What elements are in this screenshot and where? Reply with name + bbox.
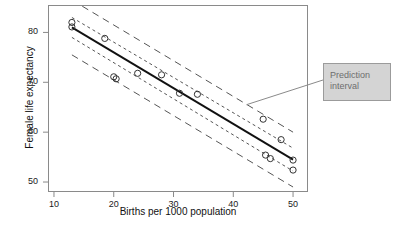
- callout-label: Prediction interval: [330, 70, 388, 92]
- callout-leader-line: [246, 80, 323, 105]
- data-points: [69, 19, 296, 173]
- callout-line-2: interval: [330, 81, 388, 92]
- chart-container: 102030405050607080 Births per 1000 popul…: [0, 0, 398, 239]
- y-axis-title: Female life expectancy: [24, 13, 35, 183]
- callout-line-1: Prediction: [330, 70, 388, 81]
- x-axis-title: Births per 1000 population: [48, 206, 308, 217]
- prediction-interval-callout: Prediction interval: [323, 63, 391, 101]
